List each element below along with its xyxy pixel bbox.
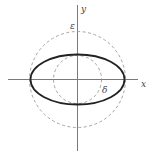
ellipse-circles-figure: y ε δ x [0, 0, 158, 158]
y-axis-label: y [80, 4, 87, 14]
diagram-canvas: y ε δ x [0, 0, 158, 158]
delta-label: δ [102, 85, 107, 95]
epsilon-label: ε [70, 21, 75, 31]
x-axis-label: x [141, 79, 146, 89]
